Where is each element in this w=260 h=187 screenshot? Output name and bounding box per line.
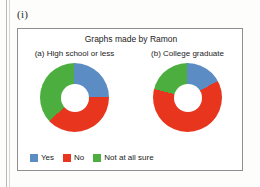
legend-item-label: Not at all sure xyxy=(104,153,153,162)
chart-subtitle-a: (a) High school or less xyxy=(18,49,131,58)
legend-swatch-no xyxy=(63,154,71,162)
page-margin-rule-inner xyxy=(9,0,10,187)
chart-panel: Graphs made by Ramon (a) High school or … xyxy=(17,28,243,171)
donut-cell-a xyxy=(18,63,131,132)
legend-item: Not at all sure xyxy=(93,153,153,162)
legend-swatch-not-sure xyxy=(93,154,101,162)
donut-cell-b xyxy=(131,63,244,132)
chart-title: Graphs made by Ramon xyxy=(18,34,244,44)
chart-legend: YesNoNot at all sure xyxy=(30,153,154,162)
donut-chart-high-school xyxy=(40,63,109,132)
legend-item: Yes xyxy=(30,153,54,162)
page-margin-rule-outer xyxy=(6,0,7,187)
donut-chart-group xyxy=(18,63,244,132)
legend-swatch-yes xyxy=(30,154,38,162)
chart-subtitles: (a) High school or less (b) College grad… xyxy=(18,49,244,58)
legend-item-label: No xyxy=(74,153,84,162)
donut-chart-college-graduate xyxy=(153,63,222,132)
legend-item-label: Yes xyxy=(41,153,54,162)
donut-hole-b xyxy=(174,84,202,112)
donut-hole-a xyxy=(61,84,89,112)
figure-identifier: (i) xyxy=(17,8,28,20)
legend-item: No xyxy=(63,153,84,162)
chart-subtitle-b: (b) College graduate xyxy=(131,49,244,58)
